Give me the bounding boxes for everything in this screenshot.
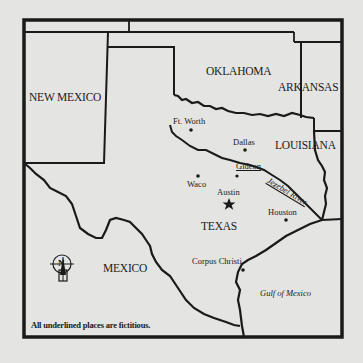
label-oklahoma: OKLAHOMA xyxy=(206,66,271,78)
ft-worth-dot xyxy=(189,128,193,132)
label-gulf-of-mexico: Gulf of Mexico xyxy=(260,289,311,298)
dallas-dot xyxy=(243,148,247,152)
compass-north-letter: N xyxy=(58,259,65,268)
label-corpus-christi: Corpus Christi xyxy=(192,257,242,266)
waco-dot xyxy=(196,174,200,178)
gideon-dot xyxy=(235,174,238,177)
label-ft-worth: Ft. Worth xyxy=(173,117,205,126)
label-waco: Waco xyxy=(187,180,206,189)
label-texas: TEXAS xyxy=(201,221,237,233)
fictitious-places-note: All underlined places are fictitious. xyxy=(31,321,150,330)
red-river xyxy=(174,95,314,118)
label-louisiana: LOUISIANA xyxy=(275,140,336,152)
corpus-christi-dot xyxy=(241,268,245,272)
gulf-coast xyxy=(236,220,322,337)
houston-dot xyxy=(284,218,288,222)
label-new-mexico: NEW MEXICO xyxy=(29,92,101,104)
label-gideon: Gideon xyxy=(236,162,261,171)
label-houston: Houston xyxy=(268,208,297,217)
label-arkansas: ARKANSAS xyxy=(278,82,338,94)
map-outlines xyxy=(0,0,363,363)
austin-capital-star-icon xyxy=(223,198,236,210)
rio-grande xyxy=(24,163,240,326)
label-dallas: Dallas xyxy=(233,138,255,147)
label-mexico: MEXICO xyxy=(103,263,147,275)
label-austin: Austin xyxy=(217,188,240,197)
